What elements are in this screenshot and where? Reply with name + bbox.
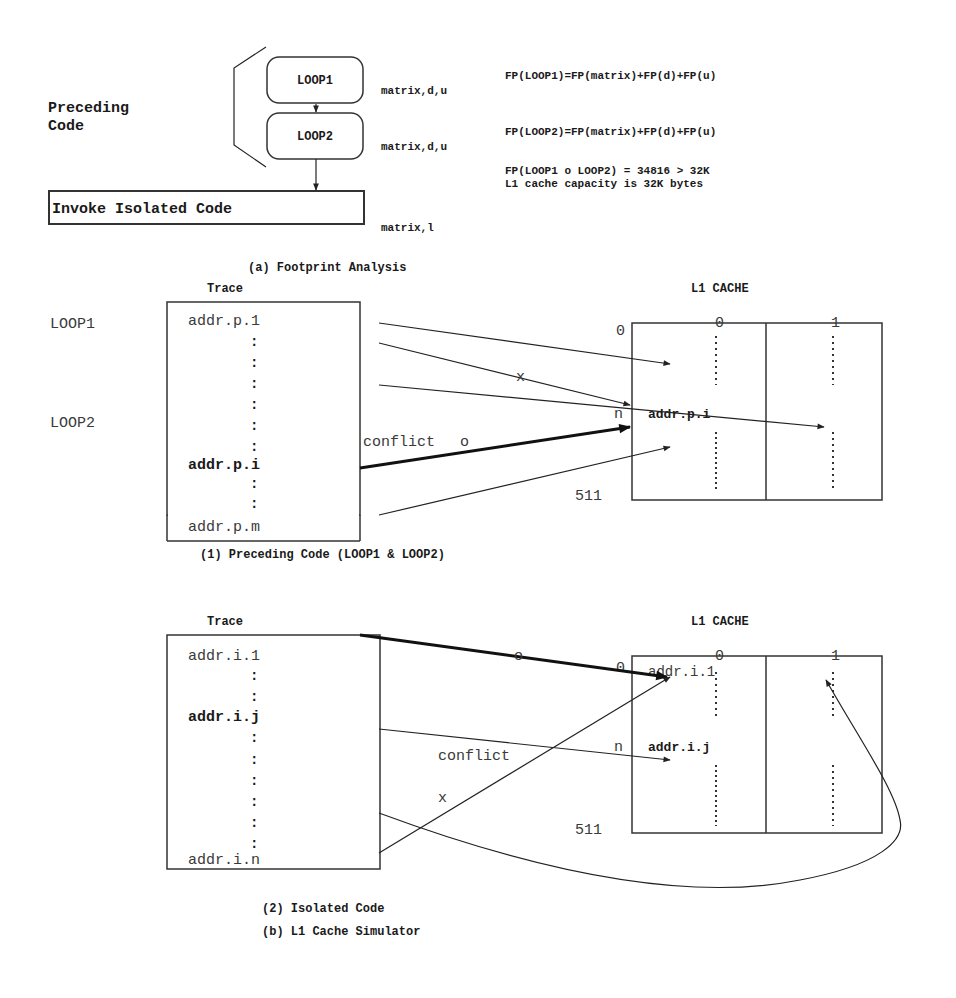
- conflict-label: conflict: [438, 748, 510, 765]
- cache-simulator-caption: (b) L1 Cache Simulator: [262, 925, 420, 939]
- fp-loop2-formula: FP(LOOP2)=FP(matrix)+FP(d)+FP(u): [505, 126, 716, 138]
- trace-entry-bold: addr.i.j: [188, 709, 260, 726]
- trace-box: [167, 302, 360, 515]
- trace-ellipsis: :: [250, 815, 258, 831]
- loop1-node-label: LOOP1: [297, 74, 333, 88]
- preceding-code-caption: (1) Preceding Code (LOOP1 & LOOP2): [200, 548, 445, 562]
- trace-ellipsis: :: [250, 752, 258, 768]
- trace-ellipsis: :: [250, 794, 258, 810]
- trace-ellipsis: :: [250, 334, 258, 350]
- trace-title: Trace: [207, 282, 243, 296]
- cache-set-label: 0: [616, 323, 625, 340]
- cache-dots: [716, 336, 833, 492]
- trace-ellipsis: :: [250, 397, 258, 413]
- trace-ellipsis: :: [250, 418, 258, 434]
- cache-title: L1 CACHE: [691, 282, 749, 296]
- mapping-arrows: [360, 323, 824, 515]
- invoke-isolated-code-label: Invoke Isolated Code: [52, 201, 232, 218]
- cache-set-label: n: [614, 739, 623, 756]
- trace-ellipsis: :: [250, 773, 258, 789]
- cache-entry-bold: addr.i.j: [648, 740, 710, 755]
- trace-entries: addr.i.1 : : addr.i.j : : : : : : addr.i…: [188, 648, 260, 869]
- loop2-vars: matrix,d,u: [381, 141, 447, 153]
- fp-combined-formula: FP(LOOP1 o LOOP2) = 34816 > 32K: [505, 165, 710, 177]
- cache-way-label: 1: [831, 648, 840, 665]
- miss-marker: x: [516, 369, 525, 386]
- trace-ellipsis: :: [250, 668, 258, 684]
- cache-title: L1 CACHE: [691, 615, 749, 629]
- trace-title: Trace: [207, 615, 243, 629]
- preceding-code-simulation: Trace L1 CACHE LOOP1 LOOP2 addr.p.1 : : …: [50, 282, 882, 562]
- trace-box: [167, 635, 380, 869]
- footprint-analysis-panel: Preceding Code LOOP1 LOOP2 Invoke Isolat…: [48, 47, 716, 275]
- preceding-code-label-2: Code: [48, 118, 84, 135]
- trace-entry-bold: addr.p.i: [188, 457, 260, 474]
- trace-entry: addr.p.m: [188, 519, 260, 536]
- trace-entry: addr.i.1: [188, 648, 260, 665]
- loop2-node-label: LOOP2: [297, 130, 333, 144]
- cache-dots: [716, 672, 833, 826]
- cache-way-label: 0: [715, 315, 724, 332]
- preceding-code-label: Preceding: [48, 100, 129, 117]
- trace-entry: addr.p.1: [188, 313, 260, 330]
- loop2-side-label: LOOP2: [50, 415, 95, 432]
- trace-ellipsis: :: [250, 836, 258, 852]
- trace-ellipsis: :: [250, 730, 258, 746]
- isolated-code-caption: (2) Isolated Code: [262, 902, 384, 916]
- cache-entry: addr.i.1: [648, 664, 715, 680]
- hit-marker: o: [514, 648, 523, 665]
- trace-ellipsis: :: [250, 476, 258, 492]
- miss-marker: x: [438, 790, 447, 807]
- trace-ellipsis: :: [250, 689, 258, 705]
- cache-set-label: 511: [575, 822, 602, 839]
- cache-entry: addr.p.i: [648, 407, 711, 422]
- conflict-label: conflict: [363, 434, 435, 451]
- cache-set-label: 511: [575, 488, 602, 505]
- preceding-code-bracket: [234, 47, 266, 167]
- trace-ellipsis: :: [250, 496, 258, 512]
- trace-entries: addr.p.1 : : : : : : addr.p.i : : addr.p…: [188, 313, 260, 536]
- trace-ellipsis: :: [250, 355, 258, 371]
- cache-way-label: 1: [831, 315, 840, 332]
- footprint-analysis-caption: (a) Footprint Analysis: [248, 261, 406, 275]
- loop1-vars: matrix,d,u: [381, 85, 447, 97]
- fp-loop1-formula: FP(LOOP1)=FP(matrix)+FP(d)+FP(u): [505, 70, 716, 82]
- cache-set-label: n: [614, 406, 623, 423]
- invoke-vars: matrix,l: [381, 222, 434, 234]
- trace-entry: addr.i.n: [188, 852, 260, 869]
- loop1-side-label: LOOP1: [50, 316, 95, 333]
- cache-set-label: 0: [616, 660, 625, 677]
- cache-capacity-note: L1 cache capacity is 32K bytes: [505, 178, 703, 190]
- cache-footprint-diagram: Preceding Code LOOP1 LOOP2 Invoke Isolat…: [0, 0, 956, 998]
- isolated-code-simulation: Trace L1 CACHE addr.i.1 : : addr.i.j : :…: [167, 615, 901, 939]
- trace-ellipsis: :: [250, 376, 258, 392]
- trace-ellipsis: :: [250, 439, 258, 455]
- hit-marker: o: [460, 434, 469, 451]
- cache-way-label: 0: [715, 648, 724, 665]
